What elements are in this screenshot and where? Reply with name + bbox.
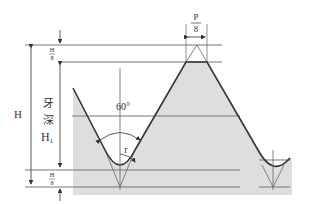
crest-width-num: P [193,12,198,22]
top-trunc-num: H [50,46,55,53]
total-height-label: H [14,108,22,120]
crest-width-den: 8 [194,24,199,34]
crest-triangle [186,45,207,62]
bottom-trunc-num: H [50,171,55,178]
depth-char-2: 深 [43,114,54,126]
radius-label: r [124,144,128,155]
top-trunc-den: 8 [50,54,53,61]
angle-label: 60° [116,101,130,112]
thread-material-fill [73,62,292,195]
thread-profile-diagram: P 8 H H 8 牙 深 H1 H 8 60° r [0,0,313,204]
bottom-trunc-den: 8 [50,179,53,186]
depth-char-1: 牙 [43,97,54,109]
depth-symbol: H1 [41,130,54,145]
